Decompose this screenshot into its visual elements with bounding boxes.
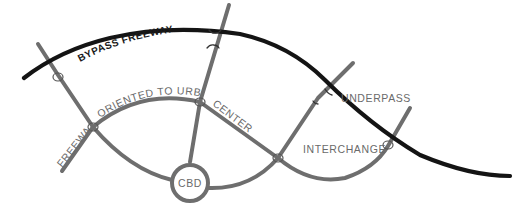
road-urban-freeway-arc — [62, 98, 278, 171]
freeway-label: FREEWAY — [0, 0, 93, 169]
road-cbd-east — [207, 63, 353, 188]
freeway-diagram: CBD BYPASS FREEWAY FREEWAY ORIENTED TO U… — [0, 0, 528, 215]
underpass-label: UNDERPASS — [341, 92, 411, 104]
oriented-to-urban-label: ORIENTED TO URBAN — [0, 0, 202, 120]
interchange-label: INTERCHANGE — [303, 143, 386, 155]
cbd-label: CBD — [178, 177, 202, 189]
